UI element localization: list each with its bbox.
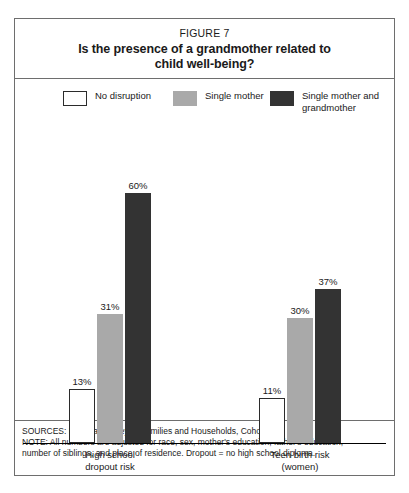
bar-g1-b1: [287, 318, 313, 443]
chart-plot-area: No disruption Single mother Single mothe…: [15, 79, 394, 421]
figure-title-line-1: Is the presence of a grandmother related…: [25, 42, 384, 57]
figure-title-line-2: child well-being?: [25, 57, 384, 72]
bar-value-g1-b1: 30%: [287, 305, 313, 316]
chart-baseline: [23, 443, 386, 444]
group-label-teen-birth-risk: Teen birth risk (women): [240, 449, 360, 472]
bar-value-g1-b2: 37%: [315, 276, 341, 287]
bar-g0-b0: [69, 389, 95, 443]
bar-g1-b2: [315, 289, 341, 443]
page-title: Is the presence of a grandmother related…: [25, 42, 384, 72]
group-label-high-school-dropout-risk: High school dropout risk: [50, 449, 170, 472]
bar-value-g1-b0: 11%: [259, 385, 285, 396]
bar-value-g0-b2: 60%: [125, 180, 151, 191]
bar-g0-b1: [97, 314, 123, 443]
bar-value-g0-b0: 13%: [69, 376, 95, 387]
bar-g1-b0: [259, 398, 285, 443]
bar-g0-b2: [125, 193, 151, 443]
figure-container: FIGURE 7 Is the presence of a grandmothe…: [14, 18, 395, 476]
figure-title-block: FIGURE 7 Is the presence of a grandmothe…: [15, 19, 394, 79]
chart-bars-layer: 13% 31% 60% High school dropout risk 11%…: [15, 79, 394, 420]
figure-number: FIGURE 7: [25, 26, 384, 40]
bar-value-g0-b1: 31%: [97, 301, 123, 312]
